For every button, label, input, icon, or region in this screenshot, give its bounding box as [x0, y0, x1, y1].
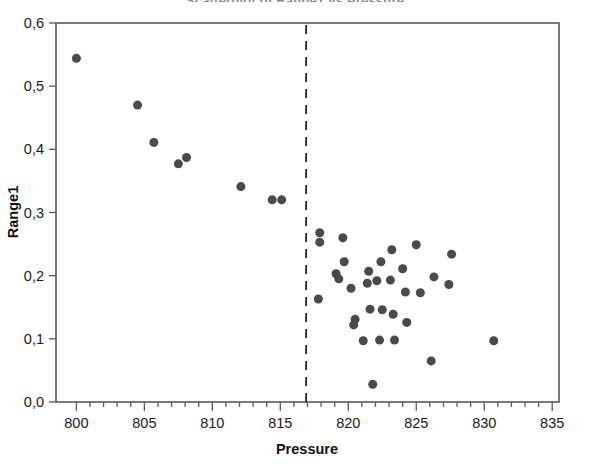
data-point — [149, 138, 158, 147]
data-point — [236, 182, 245, 191]
data-point — [314, 295, 323, 304]
data-point — [347, 284, 356, 293]
data-point — [277, 195, 286, 204]
data-point — [182, 153, 191, 162]
data-point — [401, 288, 410, 297]
data-point — [174, 159, 183, 168]
data-point — [402, 318, 411, 327]
data-point — [427, 356, 436, 365]
y-tick-label-1: 0,1 — [24, 331, 44, 347]
x-tick-label-3: 815 — [268, 415, 292, 431]
x-tick-label-6: 830 — [472, 415, 496, 431]
data-point — [363, 279, 372, 288]
y-tick-label-0: 0,0 — [24, 394, 44, 410]
data-point — [378, 305, 387, 314]
data-point — [366, 305, 375, 314]
plot-canvas: 0,00,10,20,30,40,50,6 800805810815820825… — [0, 0, 590, 464]
data-point — [315, 228, 324, 237]
scatter-points-group — [72, 54, 498, 389]
data-point — [447, 250, 456, 259]
data-point — [389, 310, 398, 319]
x-tick-label-7: 835 — [540, 415, 564, 431]
data-point — [444, 280, 453, 289]
data-point — [338, 233, 347, 242]
x-axis-title: Pressure — [276, 441, 338, 457]
data-point — [386, 276, 395, 285]
data-point — [375, 336, 384, 345]
x-tick-label-5: 825 — [404, 415, 428, 431]
x-tick-label-0: 800 — [64, 415, 88, 431]
x-tick-label-4: 820 — [336, 415, 360, 431]
y-tick-label-2: 0,2 — [24, 268, 44, 284]
data-point — [334, 274, 343, 283]
data-point — [372, 276, 381, 285]
y-axis-tick-labels: 0,00,10,20,30,40,50,6 — [24, 15, 44, 410]
data-point — [349, 320, 358, 329]
y-tick-label-3: 0,3 — [24, 205, 44, 221]
y-tick-label-4: 0,4 — [24, 141, 44, 157]
data-point — [489, 336, 498, 345]
x-axis-ticks — [76, 402, 552, 411]
x-axis-tick-labels: 800805810815820825830835 — [64, 415, 564, 431]
data-point — [133, 101, 142, 110]
y-tick-label-5: 0,5 — [24, 78, 44, 94]
data-point — [416, 288, 425, 297]
data-point — [72, 54, 81, 63]
data-point — [412, 240, 421, 249]
data-point — [315, 238, 324, 247]
data-point — [364, 267, 373, 276]
scatter-plot-figure: Scatterplot of Range1 vs Pressure 0,00,1… — [0, 0, 590, 464]
plot-frame — [56, 23, 559, 402]
y-axis-ticks — [49, 23, 56, 402]
data-point — [368, 380, 377, 389]
data-point — [359, 336, 368, 345]
data-point — [398, 264, 407, 273]
x-tick-label-1: 805 — [132, 415, 156, 431]
x-tick-label-2: 810 — [200, 415, 224, 431]
data-point — [376, 257, 385, 266]
data-point — [340, 257, 349, 266]
y-tick-label-6: 0,6 — [24, 15, 44, 31]
data-point — [429, 272, 438, 281]
data-point — [390, 336, 399, 345]
data-point — [268, 195, 277, 204]
y-axis-title: Range1 — [5, 186, 21, 238]
data-point — [387, 245, 396, 254]
